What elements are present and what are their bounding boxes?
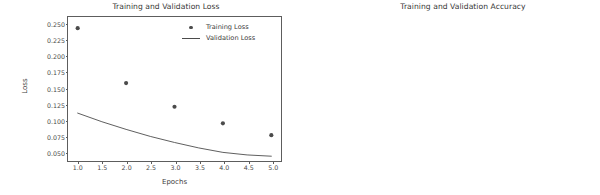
scatter-dot-icon (178, 26, 204, 29)
y-tick-label: 0.225 (47, 36, 65, 43)
y-tick-mark (66, 72, 69, 73)
figure-canvas: Training and Validation Loss 0.0500.0750… (0, 0, 600, 195)
legend-item-training-loss: Training Loss (178, 22, 255, 33)
chart-panel-loss: Training and Validation Loss 0.0500.0750… (0, 0, 300, 195)
y-tick-label: 0.175 (47, 69, 65, 76)
y-tick-mark (66, 40, 69, 41)
y-tick-mark (66, 24, 69, 25)
y-tick-label: 0.075 (47, 134, 65, 141)
y-tick-label: 0.200 (47, 53, 65, 60)
legend-item-validation-loss: Validation Loss (178, 33, 255, 44)
y-tick-mark (66, 89, 69, 90)
series-point (221, 121, 225, 125)
y-axis-label-loss: Loss (21, 56, 29, 116)
chart-panel-accuracy: Training and Validation Accuracy 0.920.9… (300, 0, 600, 195)
x-tick-label: 3.5 (195, 164, 205, 171)
y-tick-mark (66, 153, 69, 154)
legend-label: Training Loss (204, 24, 249, 31)
y-tick-label: 0.050 (47, 150, 65, 157)
legend-loss: Training Loss Validation Loss (178, 22, 255, 44)
series-point (76, 26, 80, 30)
chart-title-loss: Training and Validation Loss (0, 2, 300, 11)
y-tick-mark (66, 56, 69, 57)
x-tick-label: 5.0 (268, 164, 278, 171)
series-point (269, 133, 273, 137)
y-tick-label: 0.150 (47, 85, 65, 92)
legend-label: Validation Loss (204, 35, 255, 42)
y-tick-label: 0.125 (47, 101, 65, 108)
x-tick-label: 2.0 (122, 164, 132, 171)
x-tick-label: 1.5 (97, 164, 107, 171)
series-line (78, 113, 272, 156)
series-point (172, 105, 176, 109)
y-tick-label: 0.250 (47, 20, 65, 27)
x-tick-label: 1.0 (73, 164, 83, 171)
x-tick-label: 2.5 (146, 164, 156, 171)
y-tick-mark (66, 137, 69, 138)
x-tick-label: 4.5 (244, 164, 254, 171)
chart-title-accuracy: Training and Validation Accuracy (300, 2, 600, 11)
series-point (124, 81, 128, 85)
line-swatch-icon (178, 38, 204, 39)
x-tick-label: 3.0 (170, 164, 180, 171)
x-axis-label-loss: Epochs (67, 178, 282, 186)
y-tick-mark (66, 105, 69, 106)
x-tick-label: 4.0 (219, 164, 229, 171)
y-tick-mark (66, 121, 69, 122)
y-tick-label: 0.100 (47, 117, 65, 124)
